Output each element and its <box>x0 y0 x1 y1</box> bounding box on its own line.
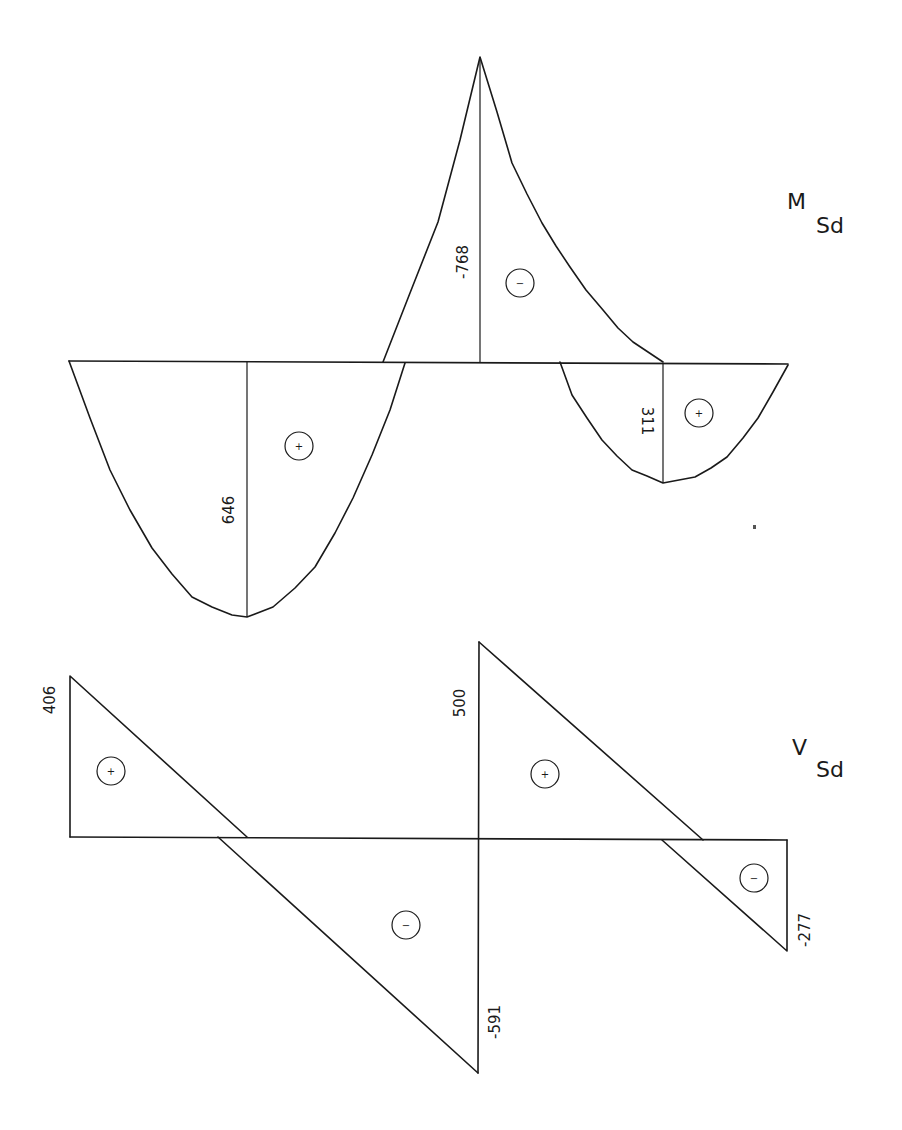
scan-artifact-dot <box>753 525 756 529</box>
shear-span2-positive <box>479 642 703 840</box>
moment-span2-value: 311 <box>638 407 656 436</box>
moment-title-sub: Sd <box>816 213 844 238</box>
moment-support-curve <box>383 57 663 362</box>
minus-sign-icon: − <box>516 278 524 289</box>
moment-diagram-title: M Sd <box>787 189 844 238</box>
shear-span1-neg-sign: − <box>392 911 420 939</box>
shear-left-value: 406 <box>41 686 59 715</box>
plus-sign-icon: + <box>295 441 303 452</box>
moment-span1-value: 646 <box>220 496 238 525</box>
shear-title-sub: Sd <box>816 757 844 782</box>
shear-baseline <box>70 837 787 840</box>
moment-baseline <box>69 361 788 364</box>
moment-support-sign: − <box>506 269 534 297</box>
shear-title-main: V <box>792 735 807 760</box>
shear-span1-negative <box>218 837 478 1073</box>
minus-sign-icon: − <box>750 873 758 884</box>
plus-sign-icon: + <box>541 769 549 780</box>
moment-diagram: 646 -768 311 + − + M Sd <box>69 57 844 617</box>
shear-right-value: -277 <box>796 913 814 947</box>
shear-mid-right-value: 500 <box>451 689 469 718</box>
plus-sign-icon: + <box>107 766 115 777</box>
shear-span2-pos-sign: + <box>531 760 559 788</box>
moment-support-value: -768 <box>454 245 472 279</box>
shear-mid-left-value: -591 <box>486 1005 504 1039</box>
shear-span1-positive <box>70 676 247 837</box>
minus-sign-icon: − <box>402 920 410 931</box>
moment-span2-sign: + <box>685 399 713 427</box>
shear-diagram: 406 500 -591 -277 + − + − V Sd <box>41 642 844 1073</box>
moment-span1-curve <box>69 361 405 617</box>
shear-span1-pos-sign: + <box>97 757 125 785</box>
shear-span2-negative <box>662 840 787 951</box>
shear-support-jump <box>478 642 479 1073</box>
moment-title-main: M <box>787 189 806 214</box>
moment-span2-curve <box>560 362 788 483</box>
moment-span1-sign: + <box>285 432 313 460</box>
plus-sign-icon: + <box>695 408 703 419</box>
shear-span2-neg-sign: − <box>740 864 768 892</box>
internal-forces-diagram: 646 -768 311 + − + M Sd <box>0 0 902 1130</box>
shear-diagram-title: V Sd <box>792 735 844 782</box>
